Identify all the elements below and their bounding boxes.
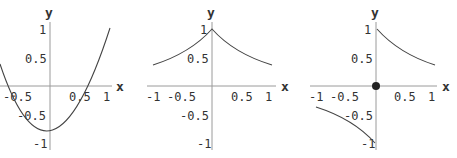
plot-odd-exp: x y -1 -0.5 0.5 1 1 0.5 -0.5 -1 <box>309 5 450 151</box>
x-tick: 1 <box>428 90 435 104</box>
y-tick: -1 <box>197 137 211 151</box>
right-branch-curve <box>377 29 435 65</box>
x-tick: -0.5 <box>167 90 196 104</box>
x-axis-label: x <box>116 79 124 94</box>
y-tick: 1 <box>39 23 46 37</box>
x-tick: 0.5 <box>394 90 416 104</box>
y-tick: 0.5 <box>351 52 373 66</box>
y-tick: -1 <box>361 137 375 151</box>
origin-point-marker <box>372 82 380 90</box>
y-axis-label: y <box>371 5 379 20</box>
three-function-plots: x y -0.5 0.5 1 1 0.5 -0.5 -1 x y -1 -0.5… <box>0 0 457 158</box>
x-tick: -1 <box>309 90 323 104</box>
x-tick: 1 <box>265 90 272 104</box>
plot-exp-abs: x y -1 -0.5 0.5 1 1 0.5 -0.5 -1 <box>146 5 289 151</box>
x-axis-label: x <box>442 79 450 94</box>
y-tick: 1 <box>364 23 371 37</box>
x-tick: 0.5 <box>231 90 253 104</box>
x-axis-label: x <box>281 79 289 94</box>
y-tick: -1 <box>33 137 47 151</box>
x-tick: 1 <box>103 90 110 104</box>
x-tick: -0.5 <box>330 90 359 104</box>
plot-parabola: x y -0.5 0.5 1 1 0.5 -0.5 -1 <box>0 5 124 151</box>
y-tick: 0.5 <box>25 52 47 66</box>
y-axis-label: y <box>207 5 215 20</box>
x-tick: -1 <box>146 90 160 104</box>
x-tick: -0.5 <box>3 90 32 104</box>
y-tick: 0.5 <box>187 52 209 66</box>
y-axis-label: y <box>45 5 53 20</box>
y-tick: -0.5 <box>180 109 209 123</box>
